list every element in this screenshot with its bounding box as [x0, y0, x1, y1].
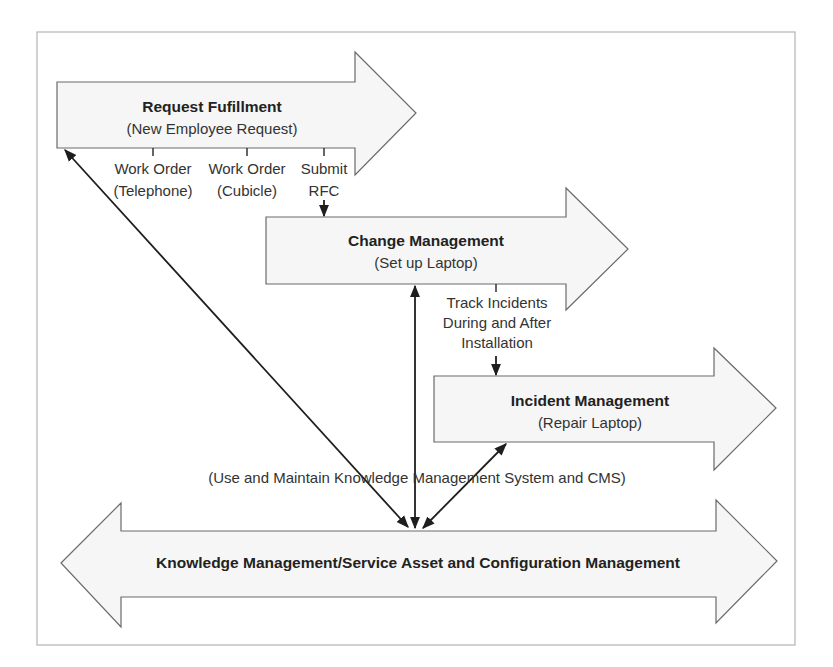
incident-management-title: Incident Management	[511, 392, 669, 409]
foundation-title: Knowledge Management/Service Asset and C…	[156, 554, 680, 571]
output-label-3-line2: RFC	[309, 182, 340, 199]
change-management-title: Change Management	[348, 232, 504, 249]
track-label-line1: Track Incidents	[446, 294, 547, 311]
change-management-subtitle: (Set up Laptop)	[374, 254, 477, 271]
itsm-process-diagram: Request Fufillment (New Employee Request…	[0, 0, 833, 667]
incident-management-subtitle: (Repair Laptop)	[538, 414, 642, 431]
output-label-1-line1: Work Order	[114, 160, 191, 177]
request-fulfillment-subtitle: (New Employee Request)	[127, 120, 298, 137]
output-label-3-line1: Submit	[301, 160, 349, 177]
track-label-line3: Installation	[461, 334, 533, 351]
kms-label: (Use and Maintain Knowledge Management S…	[208, 469, 626, 486]
output-label-2-line1: Work Order	[208, 160, 285, 177]
request-fulfillment-title: Request Fufillment	[142, 98, 282, 115]
track-label-line2: During and After	[443, 314, 551, 331]
output-label-2-line2: (Cubicle)	[217, 182, 277, 199]
output-label-1-line2: (Telephone)	[113, 182, 192, 199]
